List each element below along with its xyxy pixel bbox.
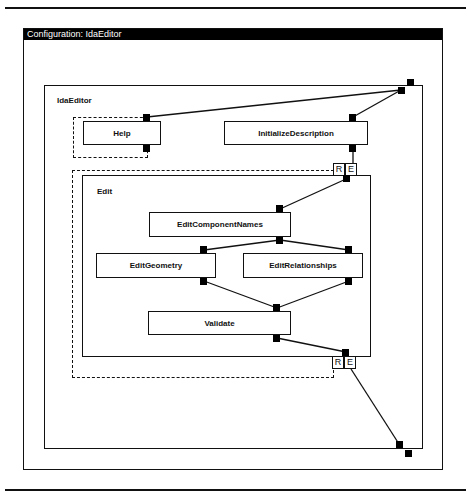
edit-bottom-e-port[interactable]: E bbox=[344, 356, 356, 369]
validate-in-port[interactable] bbox=[273, 304, 280, 311]
root-inner-entry-port[interactable] bbox=[398, 87, 405, 94]
help-node[interactable]: Help bbox=[83, 121, 161, 145]
root-exit-port[interactable] bbox=[405, 450, 412, 457]
edit-bottom-r-port[interactable]: R bbox=[332, 356, 344, 369]
relationships-in-port[interactable] bbox=[345, 246, 352, 253]
initialize-out-port[interactable] bbox=[349, 145, 356, 152]
edit-component-names-node[interactable]: EditComponentNames bbox=[149, 212, 291, 237]
relationships-out-port[interactable] bbox=[345, 278, 352, 285]
root-inner-exit-port[interactable] bbox=[396, 441, 403, 448]
ecn-in-port[interactable] bbox=[276, 205, 283, 212]
edit-inner-exit-port[interactable] bbox=[342, 349, 349, 356]
top-rule bbox=[5, 7, 466, 9]
initialize-in-port[interactable] bbox=[349, 114, 356, 121]
help-out-port[interactable] bbox=[143, 145, 150, 152]
edit-relationships-node[interactable]: EditRelationships bbox=[243, 253, 363, 278]
validate-node[interactable]: Validate bbox=[148, 311, 291, 335]
ecn-out-port[interactable] bbox=[276, 237, 283, 244]
edit-geometry-node[interactable]: EditGeometry bbox=[96, 253, 216, 278]
window-title[interactable]: Configuration: IdaEditor bbox=[24, 29, 442, 40]
root-entry-port[interactable] bbox=[407, 79, 414, 86]
edit-label: Edit bbox=[97, 187, 112, 196]
idaeditor-label: IdaEditor bbox=[57, 96, 92, 105]
bottom-rule bbox=[5, 489, 466, 491]
validate-out-port[interactable] bbox=[273, 335, 280, 342]
initialize-description-node[interactable]: InitializeDescription bbox=[224, 121, 368, 145]
help-in-port[interactable] bbox=[143, 114, 150, 121]
geometry-out-port[interactable] bbox=[200, 278, 207, 285]
geometry-in-port[interactable] bbox=[200, 246, 207, 253]
edit-inner-entry-port[interactable] bbox=[343, 175, 350, 182]
